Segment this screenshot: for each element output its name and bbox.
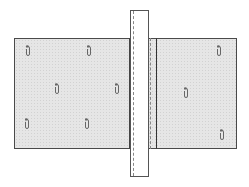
- joining-strip: [130, 10, 149, 177]
- safety-pin-icon: [114, 83, 120, 94]
- safety-pin-icon: [84, 118, 90, 129]
- safety-pin-icon: [216, 45, 222, 56]
- safety-pin-icon: [24, 118, 30, 129]
- stitch-line-left: [133, 11, 134, 176]
- stitch-line-right: [150, 38, 151, 149]
- safety-pin-icon: [25, 45, 31, 56]
- safety-pin-icon: [183, 87, 189, 98]
- safety-pin-icon: [86, 45, 92, 56]
- safety-pin-icon: [219, 129, 225, 140]
- safety-pin-icon: [54, 83, 60, 94]
